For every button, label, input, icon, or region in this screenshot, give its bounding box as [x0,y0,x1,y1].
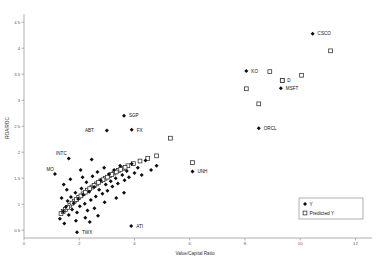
y-axis-title: ROA/ROC [5,117,10,139]
data-point-y [84,180,88,184]
point-label-twx: TWX [82,230,92,235]
data-point-y [129,224,133,228]
point-label-intc: INTC [56,151,67,156]
data-point-predicted-y [138,159,142,163]
data-point-y [120,173,124,177]
data-point-y [114,176,118,180]
point-label-ati: ATI [136,224,143,229]
point-label-fx: FX [137,128,143,133]
y-tick-label: 1.5 [14,176,20,181]
data-point-y [73,191,77,195]
data-point-predicted-y [88,187,92,191]
data-point-y [92,206,96,210]
x-tick-label: 2 [78,241,81,246]
data-point-y [86,208,90,212]
data-point-y [136,166,140,170]
data-point-predicted-y [268,70,272,74]
x-tick-label: 4 [133,241,136,246]
data-point-predicted-y [191,161,195,165]
data-point-predicted-y [123,165,127,169]
data-point-y [96,214,100,218]
x-tick-label: 12 [353,241,358,246]
data-point-predicted-y [119,167,123,171]
x-axis-title: Value/Capital Ratio [176,251,215,256]
data-point-y [78,204,82,208]
x-tick-label: 8 [244,241,247,246]
data-point-y [190,169,194,173]
y-tick-label: 3 [18,98,21,103]
x-axis: 024681012 [23,238,372,246]
data-point-y [94,194,98,198]
data-point-y [53,172,57,176]
x-tick-label: 10 [298,241,303,246]
data-point-predicted-y [155,154,159,158]
data-point-predicted-y [83,190,87,194]
y-tick-label: 2.5 [14,124,20,129]
data-point-y [90,174,94,178]
data-point-y [95,170,99,174]
data-point-y [67,213,71,217]
data-point-y [100,192,104,196]
point-label-mo: MO [47,167,55,172]
data-point-y [65,188,69,192]
y-tick-label: 1 [18,202,21,207]
data-point-predicted-y [106,175,110,179]
data-point-y [88,220,92,224]
y-tick-label: 3.5 [14,72,20,77]
data-point-y [244,69,248,73]
point-label-sgp: SGP [129,113,139,118]
data-point-y [70,207,74,211]
data-point-y [114,196,118,200]
y-tick-label: 2 [18,150,21,155]
y-axis: 0.511.522.533.544.5 [14,14,24,238]
data-point-y [103,200,107,204]
data-point-y [257,126,261,130]
point-labels: CSCOKOMSFTDORCLSGPABTFXINTCMOUNHTWXATI [47,31,332,235]
legend-label-predicted-y[interactable]: Predicted Y [310,211,336,216]
y-tick-label: 4.5 [14,20,20,25]
point-label-csco: CSCO [318,31,332,36]
data-point-y [90,157,94,161]
data-point-y [279,86,283,90]
data-point-predicted-y [300,73,304,77]
y-tick-label: 0.5 [14,228,20,233]
x-tick-label: 0 [23,241,26,246]
data-point-y [109,179,113,183]
data-point-y [58,217,62,221]
point-label-d: D [287,78,291,83]
data-point-y [311,32,315,36]
data-point-y [116,181,120,185]
data-point-y [89,198,93,202]
data-point-y [62,182,66,186]
data-point-y [127,175,131,179]
data-point-y [81,175,85,179]
data-point-y [105,189,109,193]
data-point-predicted-y [244,87,248,91]
point-label-ko: KO [251,69,258,74]
data-point-y [79,187,83,191]
data-point-y [75,211,79,215]
data-point-y [104,182,108,186]
chart-legend[interactable]: YPredicted Y [299,198,363,219]
data-point-y [75,230,79,234]
data-point-y [60,196,64,200]
data-point-y [102,166,106,170]
data-point-y [132,171,136,175]
x-tick-label: 6 [189,241,192,246]
scatter-chart: 0.511.522.533.544.5 024681012 Value/Capi… [0,0,381,268]
point-label-unh: UNH [197,169,207,174]
data-point-y [155,164,159,168]
data-point-y [123,178,127,182]
data-point-y [79,168,83,172]
data-point-y [122,114,126,118]
chart-canvas: 0.511.522.533.544.5 024681012 Value/Capi… [0,0,381,268]
data-point-y [105,128,109,132]
y-tick-label: 4 [18,46,21,51]
data-point-y [83,216,87,220]
point-label-msft: MSFT [286,86,299,91]
data-point-y [122,191,126,195]
series-y [58,157,159,225]
data-point-predicted-y [168,136,172,140]
data-point-predicted-y [329,49,333,53]
point-label-abt: ABT [85,128,94,133]
